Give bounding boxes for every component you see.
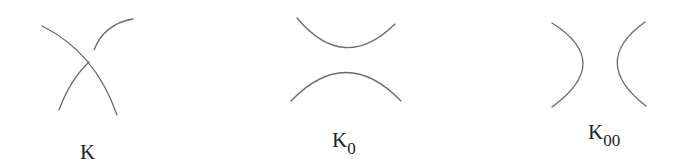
label-k00-main: K (588, 120, 603, 144)
label-k0: K0 (332, 130, 356, 157)
label-k00-subscript: 00 (603, 131, 620, 150)
label-k-main: K (80, 140, 95, 164)
label-k0-subscript: 0 (347, 139, 356, 158)
under-strand-upper (94, 19, 133, 50)
right-arc (617, 22, 646, 106)
left-arc (552, 23, 583, 107)
lower-arc (291, 73, 401, 102)
label-k0-main: K (332, 128, 347, 152)
crossing-panel (42, 19, 133, 115)
over-strand (42, 26, 117, 115)
label-k00: K00 (588, 122, 620, 149)
label-k: K (80, 142, 95, 168)
horizontal-smoothing-panel (291, 18, 401, 101)
under-strand-lower (59, 62, 89, 110)
vertical-smoothing-panel (552, 22, 646, 107)
upper-arc (297, 18, 395, 48)
